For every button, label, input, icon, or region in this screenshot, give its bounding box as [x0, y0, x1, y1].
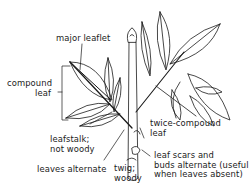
label-line: leaf — [150, 129, 221, 139]
label-twig: twig; woody — [114, 164, 142, 183]
twice-compound-leaf — [136, 12, 230, 126]
label-line: not woody — [50, 145, 95, 155]
label-leafstalk: leafstalk; not woody — [50, 135, 95, 154]
label-line: leaves alternate — [37, 165, 106, 175]
label-compound-leaf: compound leaf — [7, 79, 51, 98]
label-leaves-alternate: leaves alternate — [37, 165, 106, 175]
compound-leaf — [66, 58, 132, 128]
label-line: woody — [114, 174, 142, 184]
label-leaf-scars: leaf scars and buds alternate (useful wh… — [154, 151, 249, 180]
label-twice-compound-leaf: twice-compound leaf — [150, 119, 221, 138]
label-line: major leaflet — [56, 34, 110, 44]
label-major-leaflet: major leaflet — [56, 34, 110, 44]
twig-stem — [127, 28, 140, 181]
label-line: when leaves absent) — [154, 170, 249, 180]
label-line: leaf — [7, 89, 51, 99]
